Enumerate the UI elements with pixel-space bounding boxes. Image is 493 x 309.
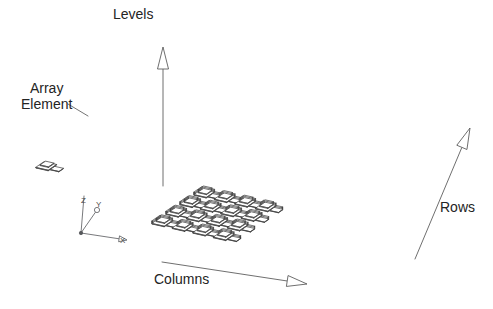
levels-arrow-head (158, 47, 169, 69)
triad-origin-dot (79, 231, 82, 234)
array-element-exemplar (36, 161, 64, 172)
triad-y-label: Y (96, 200, 101, 209)
triad-x-label: X (120, 236, 125, 245)
coordinate-triad (79, 196, 127, 242)
array-element-label-line1: Array (30, 80, 63, 96)
columns-axis-label: Columns (154, 271, 209, 287)
diagram-artwork (0, 0, 493, 309)
array-element-label-line2: Element (21, 96, 72, 112)
levels-axis-label: Levels (113, 6, 153, 22)
triad-y-shaft (81, 210, 97, 233)
array-element-label: ArrayElement (21, 80, 72, 112)
rows-arrow-head (457, 128, 470, 149)
array-diagram-figure: Levels ArrayElement Columns Rows X Y Z (0, 0, 493, 309)
triad-z-label: Z (81, 196, 86, 205)
triad-x-shaft (81, 233, 119, 239)
rows-arrow (415, 128, 470, 259)
columns-arrow-head (286, 276, 307, 287)
element-lattice (152, 186, 283, 242)
rows-axis-label: Rows (440, 199, 475, 215)
levels-arrow (158, 47, 169, 186)
